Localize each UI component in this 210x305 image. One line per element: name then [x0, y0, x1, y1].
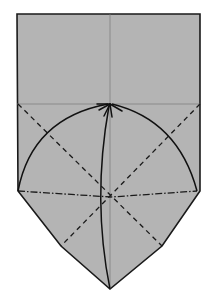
origami-diagram — [0, 0, 210, 305]
paper-outline — [17, 14, 200, 289]
